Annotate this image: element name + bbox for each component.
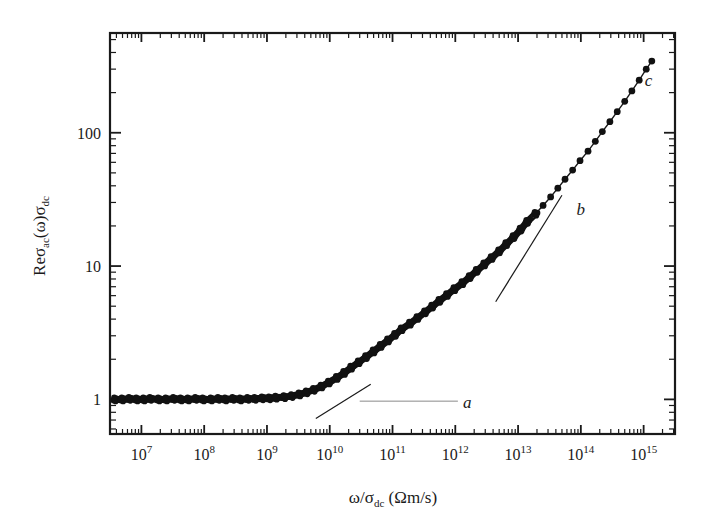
data-point [488, 253, 494, 259]
data-point [377, 341, 383, 347]
y-tick-label: 100 [77, 125, 101, 142]
data-point [547, 194, 554, 201]
data-point [614, 108, 621, 115]
data-point [111, 395, 117, 401]
data-point [222, 395, 228, 401]
y-title-re: Re [30, 257, 49, 276]
data-point [495, 247, 501, 253]
annotation-label-c: c [645, 71, 653, 90]
annotation-label-a: a [463, 393, 472, 412]
data-point [177, 395, 183, 401]
data-point [272, 393, 278, 399]
data-point [303, 388, 309, 394]
data-point [251, 394, 257, 400]
ac-conductivity-scatter-plot: 107108109101010111012101310141015 110100… [0, 0, 701, 524]
data-point [636, 77, 643, 84]
data-point [170, 394, 176, 400]
data-point [288, 391, 294, 397]
y-title-sigma1-sub: ac [39, 238, 51, 248]
x-title-omega: ω [349, 488, 360, 507]
data-point [585, 148, 592, 155]
data-point [340, 368, 346, 374]
data-point [384, 336, 390, 342]
data-point [229, 394, 235, 400]
data-point [199, 395, 205, 401]
data-point [296, 390, 302, 396]
y-title-sigma1: σ [30, 248, 49, 257]
data-point [532, 209, 538, 215]
data-point [370, 347, 376, 353]
x-title-sigma-sub: dc [374, 497, 385, 509]
y-tick-label: 1 [93, 391, 101, 408]
data-point [347, 363, 353, 369]
data-point [421, 308, 427, 314]
y-title-sigma2-sub: dc [39, 196, 51, 207]
data-point [266, 393, 272, 399]
data-point [510, 232, 516, 238]
data-point [318, 382, 324, 388]
svg-text:ω/σdc (Ωm/s): ω/σdc (Ωm/s) [349, 488, 437, 509]
data-point [480, 260, 486, 266]
x-title-sigma: σ [365, 488, 374, 507]
data-point [523, 217, 529, 223]
data-point [648, 58, 655, 65]
y-tick-label: 10 [85, 258, 101, 275]
data-point [428, 302, 434, 308]
data-point [140, 395, 146, 401]
data-point [281, 392, 287, 398]
x-axis-title: ω/σdc (Ωm/s) [349, 488, 437, 509]
data-point [184, 395, 190, 401]
data-point [406, 319, 412, 325]
data-point [133, 395, 139, 401]
data-point [451, 284, 457, 290]
data-point [237, 395, 243, 401]
y-axis-title: Reσac(ω)σdc [30, 196, 51, 276]
data-point [554, 185, 561, 192]
data-point [362, 352, 368, 358]
data-point [436, 296, 442, 302]
data-point [244, 394, 250, 400]
data-point [119, 395, 125, 401]
data-point [155, 395, 161, 401]
data-point [215, 394, 221, 400]
data-point [592, 138, 599, 145]
data-point [259, 393, 265, 399]
data-point [398, 324, 404, 330]
annotation-label-b: b [577, 200, 586, 219]
data-point [391, 330, 397, 336]
data-point [466, 272, 472, 278]
data-point [459, 278, 465, 284]
data-point [333, 373, 339, 379]
data-point [599, 128, 606, 135]
data-point [562, 176, 569, 183]
data-point [162, 395, 168, 401]
data-point [443, 290, 449, 296]
svg-text:Reσac(ω)σdc: Reσac(ω)σdc [30, 196, 51, 276]
data-point [540, 202, 547, 209]
data-point [628, 88, 635, 95]
figure-background [0, 0, 701, 524]
x-title-units: (Ωm/s) [389, 488, 438, 507]
figure-container: 107108109101010111012101310141015 110100… [0, 0, 701, 524]
y-title-omega: (ω) [30, 216, 49, 239]
data-point [577, 157, 584, 164]
data-point [147, 394, 153, 400]
data-point [192, 394, 198, 400]
data-point [310, 385, 316, 391]
data-point [414, 313, 420, 319]
data-point [621, 98, 628, 105]
data-point [569, 167, 576, 174]
data-point [517, 225, 523, 231]
data-point [502, 239, 508, 245]
data-point [473, 266, 479, 272]
data-point [325, 378, 331, 384]
data-point [606, 118, 613, 125]
data-point [355, 357, 361, 363]
data-point [207, 395, 213, 401]
data-point [126, 394, 132, 400]
y-title-sigma2: σ [30, 206, 49, 215]
